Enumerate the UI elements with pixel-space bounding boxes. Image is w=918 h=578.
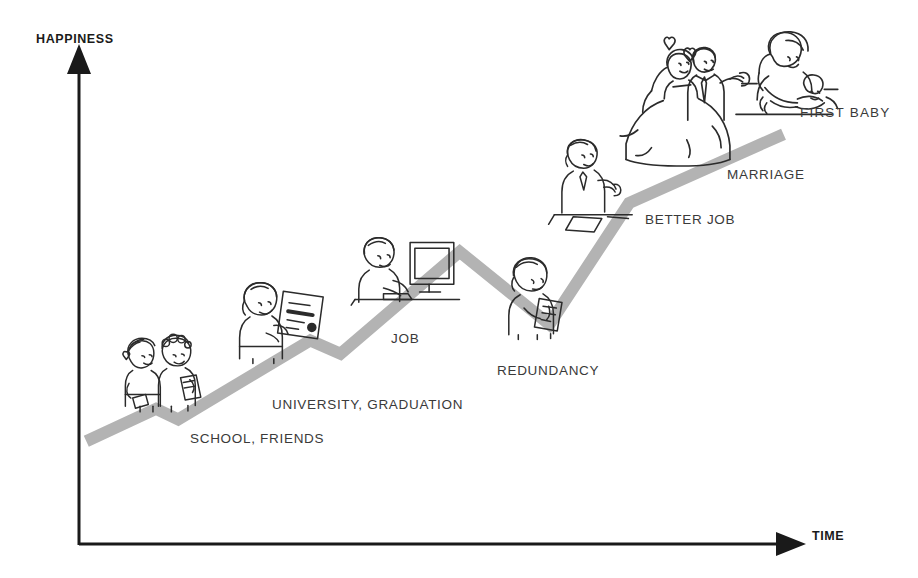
school-friends-figure (123, 334, 201, 412)
label-university-graduation: UNIVERSITY, GRADUATION (272, 397, 463, 412)
y-axis-label: HAPPINESS (36, 32, 114, 46)
label-redundancy: REDUNDANCY (497, 363, 599, 378)
mother-baby-figure (736, 32, 838, 115)
x-axis-label: TIME (812, 529, 844, 543)
chart-canvas (0, 0, 918, 578)
happiness-timeline-chart: HAPPINESS TIME SCHOOL, FRIENDS UNIVERSIT… (0, 0, 918, 578)
wedding-figure (620, 37, 749, 166)
label-school-friends: SCHOOL, FRIENDS (190, 431, 324, 446)
label-marriage: MARRIAGE (727, 167, 805, 182)
happiness-trend-line (86, 134, 783, 441)
label-job: JOB (391, 331, 419, 346)
better-job-figure (549, 140, 633, 232)
x-axis-arrowhead (776, 532, 806, 556)
y-axis-arrowhead (67, 44, 91, 74)
label-first-baby: FIRST BABY (800, 105, 891, 120)
label-better-job: BETTER JOB (645, 212, 735, 227)
